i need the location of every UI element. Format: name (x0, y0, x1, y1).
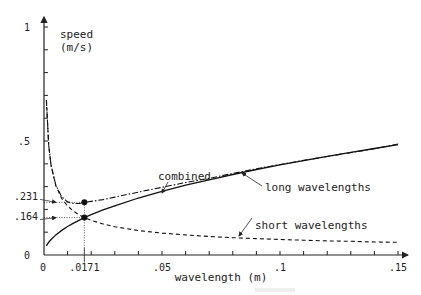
annotation-arrow (239, 218, 252, 236)
wave-speed-chart: combinedlong wavelengthsshort wavelength… (0, 0, 421, 295)
annotation-combined: combined (158, 170, 211, 183)
annotation-long-wavelengths: long wavelengths (265, 181, 371, 194)
component-label-arrow (40, 218, 56, 220)
annotation-short-wavelengths: short wavelengths (255, 219, 368, 232)
caption-fragment (255, 288, 295, 292)
y-axis-title: (m/s) (60, 41, 93, 54)
combined-label-arrow (40, 199, 56, 202)
crossover-x-label: .0171 (69, 262, 99, 273)
annotations: combinedlong wavelengthsshort wavelength… (158, 170, 371, 236)
crossover-guides (40, 199, 87, 262)
x-tick-label: .15 (389, 262, 407, 273)
y-tick-label: 0 (24, 250, 30, 261)
combined-value-label: .231 (14, 191, 38, 202)
x-tick-label: .05 (153, 262, 171, 273)
x-tick-label: 0 (40, 262, 46, 273)
annotation-arrow (242, 173, 262, 186)
tick-labels: 0.05.1.150.51wavelength (m)speed(m/s).23… (14, 22, 407, 292)
y-axis-title: speed (60, 28, 93, 41)
x-axis-title: wavelength (m) (175, 271, 268, 284)
y-tick-label: .5 (18, 136, 30, 147)
x-tick-label: .1 (274, 262, 286, 273)
component-value-label: .164 (14, 211, 38, 222)
y-tick-label: 1 (24, 22, 30, 33)
